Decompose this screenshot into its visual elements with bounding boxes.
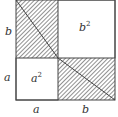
label-left-b: b — [5, 25, 12, 38]
label-bottom-a: a — [33, 103, 40, 116]
label-bottom-b: b — [82, 103, 89, 116]
pythagoras-diagram: b a a b a2 b2 — [0, 0, 118, 117]
label-left-a: a — [4, 71, 11, 84]
square-b-squared — [58, 0, 115, 58]
